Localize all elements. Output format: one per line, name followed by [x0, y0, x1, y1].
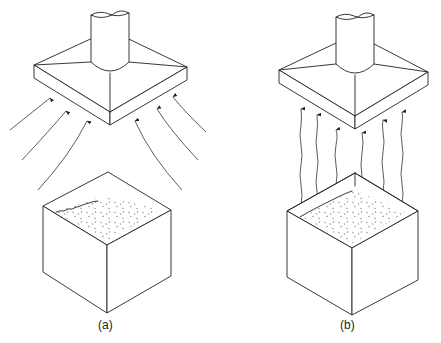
caption-text-a: (a): [98, 318, 113, 332]
panel-a: [10, 11, 206, 313]
open-tank-b: [287, 173, 418, 315]
panel-label-b: (b): [340, 318, 355, 332]
diagram-canvas: [0, 0, 441, 343]
open-tank-a: [43, 172, 171, 313]
exhaust-duct-a: [91, 11, 129, 71]
caption-text-b: (b): [340, 318, 355, 332]
panel-label-a: (a): [98, 318, 113, 332]
panel-b: [279, 13, 428, 315]
exhaust-duct-b: [336, 13, 374, 73]
